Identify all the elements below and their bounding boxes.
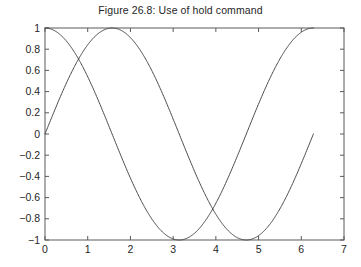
x-tick-label: 7 — [341, 243, 347, 255]
x-tick-label: 2 — [128, 243, 134, 255]
plot-canvas: 01234567 10.80.60.40.20−0.2−0.4−0.6−0.8−… — [0, 0, 361, 267]
y-tick-label: −0.4 — [19, 170, 40, 182]
series-line-sin — [45, 28, 313, 240]
y-tick-label: 0 — [34, 128, 40, 140]
y-tick-label: −0.6 — [19, 191, 40, 203]
x-tick-label: 3 — [170, 243, 176, 255]
x-tick-label: 1 — [85, 243, 91, 255]
y-tick-label: 1 — [34, 22, 40, 34]
x-tick-label: 0 — [42, 243, 48, 255]
axes-box — [45, 28, 344, 240]
x-tick-label: 6 — [298, 243, 304, 255]
y-tick-label: 0.8 — [25, 43, 40, 55]
axes-frame — [45, 28, 344, 240]
y-tick-label: −0.8 — [19, 212, 40, 224]
y-tick-label: 0.4 — [25, 85, 40, 97]
x-tick-label: 5 — [256, 243, 262, 255]
y-tick-label: −1 — [28, 234, 40, 246]
x-tick-label: 4 — [213, 243, 219, 255]
x-axis-ticks — [45, 28, 344, 240]
y-axis-tick-labels: 10.80.60.40.20−0.2−0.4−0.6−0.8−1 — [19, 22, 40, 246]
y-tick-label: 0.6 — [25, 64, 40, 76]
figure-container: Figure 26.8: Use of hold command 0123456… — [0, 0, 361, 267]
x-axis-tick-labels: 01234567 — [42, 243, 347, 255]
y-tick-label: 0.2 — [25, 106, 40, 118]
y-axis-ticks — [45, 28, 344, 240]
data-series — [45, 28, 313, 240]
y-tick-label: −0.2 — [19, 149, 40, 161]
